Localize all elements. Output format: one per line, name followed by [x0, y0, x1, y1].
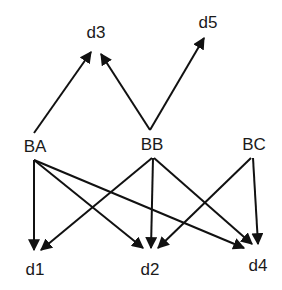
edge-BA-d2: [34, 160, 143, 248]
node-BA: BA: [24, 137, 47, 156]
node-d3: d3: [87, 23, 106, 42]
node-d5: d5: [199, 13, 218, 32]
edge-BA-d4: [34, 160, 244, 248]
edge-BB-d3: [101, 54, 150, 130]
node-BC: BC: [242, 135, 266, 154]
node-d1: d1: [26, 260, 45, 279]
node-BB: BB: [141, 135, 164, 154]
dependency-diagram: d3 d5 BA BB BC d1 d2 d4: [0, 0, 282, 290]
edge-BA-d3: [34, 52, 91, 133]
edge-BB-d5: [150, 38, 204, 130]
node-d2: d2: [141, 260, 160, 279]
node-d4: d4: [249, 256, 268, 275]
edge-BC-d2: [158, 158, 251, 248]
edge-BB-d1: [41, 158, 152, 250]
edge-BC-d4: [253, 158, 258, 244]
edge-BB-d2: [151, 158, 153, 248]
nodes: d3 d5 BA BB BC d1 d2 d4: [24, 13, 268, 279]
